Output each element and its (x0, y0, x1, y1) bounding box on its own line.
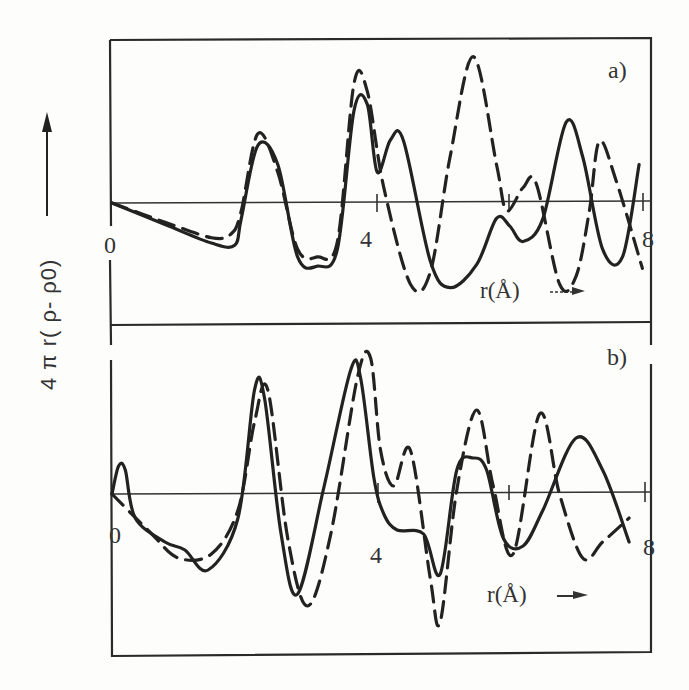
panel-a-tick-label-8: 8 (642, 226, 654, 252)
y-axis-label: 4 π r( ρ- ρ0) (36, 259, 61, 390)
panel-a-tick-label-0: 0 (104, 232, 116, 258)
panel-divider (111, 322, 651, 325)
y-axis-arrow-icon (42, 112, 52, 132)
panel-b-label: b) (607, 344, 627, 370)
panel-a-tick-label-4: 4 (360, 226, 372, 252)
panel-b-zero-axis (111, 492, 652, 494)
panel-a-zero-axis (111, 201, 651, 203)
chart: 0 4 8 a) r(Å) 0 4 8 b) r(Å) 4 π r( ρ- ρ0… (0, 0, 689, 690)
panel-b-tick-label-0: 0 (109, 522, 121, 548)
panel-a-dashed-curve (112, 57, 642, 292)
panel-b-xlabel-arrow (557, 591, 588, 599)
panel-b-xlabel: r(Å) (487, 582, 527, 607)
panel-a-solid-curve (112, 95, 639, 288)
panel-b-tick-label-4: 4 (370, 542, 382, 568)
panel-b-tick-label-8: 8 (643, 534, 655, 560)
y-axis-label-group: 4 π r( ρ- ρ0) (36, 112, 61, 390)
panel-a-label: a) (608, 57, 627, 83)
panel-a-xlabel: r(Å) (480, 278, 520, 303)
